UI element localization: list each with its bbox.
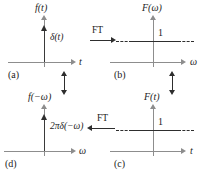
panel-c-constant-level-left-dashed: [116, 130, 132, 131]
panel-d-horizontal-axis-arrowhead: [71, 148, 76, 154]
connector-duality-left-arrowhead-down: [61, 90, 67, 95]
panel-b: ω F(ω) 1 (b): [106, 0, 212, 89]
panel-d: ω f(−ω) 2πδ(−ω) (d): [0, 89, 106, 178]
connector-ft-top-line: [90, 40, 112, 41]
panel-c-horizontal-axis-arrowhead: [181, 148, 186, 154]
connector-ft-top-arrowhead-right: [111, 37, 116, 43]
panel-a-impulse-arrowhead: [41, 25, 47, 31]
connector-duality-right-arrowhead-down: [169, 90, 175, 95]
panel-c-horizontal-axis-label: t: [190, 146, 193, 156]
panel-b-signal-label: 1: [158, 28, 163, 38]
panel-a: t f(t) δ(t) (a): [0, 0, 106, 89]
connector-duality-right-line: [172, 76, 173, 91]
panel-a-horizontal-axis-arrowhead: [71, 59, 76, 65]
connector-duality-left-line: [64, 76, 65, 91]
panel-a-signal-label: δ(t): [50, 33, 63, 43]
panel-c-signal-label: 1: [158, 117, 163, 127]
panel-b-constant-level-right-dashed: [178, 41, 194, 42]
panel-d-vertical-axis-label: f(−ω): [28, 92, 51, 102]
connector-ft-bottom-label: FT: [97, 114, 108, 124]
panel-b-vertical-axis: [153, 19, 154, 67]
panel-c-horizontal-axis: [110, 151, 182, 152]
panel-c-vertical-axis: [153, 108, 154, 156]
panel-c: t F(t) 1 (c): [106, 89, 212, 178]
panel-d-vertical-axis-arrowhead: [41, 104, 47, 109]
panel-d-horizontal-axis-label: ω: [79, 146, 86, 156]
panel-d-signal-label: 2πδ(−ω): [50, 122, 83, 132]
panel-b-vertical-axis-label: F(ω): [142, 3, 162, 13]
panel-b-horizontal-axis-label: ω: [190, 57, 197, 67]
panel-a-horizontal-axis-label: t: [79, 57, 82, 67]
panel-b-horizontal-axis: [110, 62, 182, 63]
panel-a-vertical-axis-label: f(t): [35, 3, 47, 13]
connector-ft-bottom-arrowhead-left: [87, 125, 92, 131]
panel-d-impulse-stem: [44, 117, 45, 151]
panel-c-tag: (c): [114, 159, 125, 169]
connector-duality-right-arrowhead-up: [169, 71, 175, 76]
panel-a-tag: (a): [8, 70, 19, 80]
panel-b-constant-level-left-dashed: [116, 41, 132, 42]
panel-a-impulse-stem: [44, 28, 45, 62]
panel-c-constant-level-right-dashed: [178, 130, 194, 131]
panel-c-constant-level-solid: [132, 130, 178, 131]
connector-duality-left-arrowhead-up: [61, 71, 67, 76]
panel-c-vertical-axis-label: F(t): [144, 92, 160, 102]
panel-a-horizontal-axis: [8, 62, 72, 63]
panel-b-constant-level-solid: [132, 41, 178, 42]
fourier-duality-figure: t f(t) δ(t) (a) ω F(ω) 1 (b) t: [0, 0, 212, 178]
panel-d-tag: (d): [5, 159, 17, 169]
panel-d-horizontal-axis: [4, 151, 72, 152]
panel-d-impulse-arrowhead: [41, 114, 47, 120]
panel-b-vertical-axis-arrowhead: [150, 15, 156, 20]
panel-c-vertical-axis-arrowhead: [150, 104, 156, 109]
panel-b-tag: (b): [114, 70, 126, 80]
panel-b-horizontal-axis-arrowhead: [181, 59, 186, 65]
panel-a-vertical-axis-arrowhead: [41, 15, 47, 20]
connector-ft-top-label: FT: [92, 26, 103, 36]
connector-ft-bottom-line: [92, 128, 115, 129]
